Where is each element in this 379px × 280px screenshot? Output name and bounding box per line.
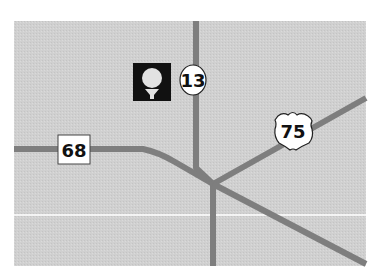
golf-marker[interactable] (133, 63, 171, 101)
route-68-label: 68 (61, 140, 86, 161)
route-75-label: 75 (280, 121, 305, 142)
route-68-marker[interactable]: 68 (58, 135, 90, 164)
route-75-marker[interactable]: 75 (275, 113, 313, 151)
route-13-marker[interactable]: 13 (180, 65, 206, 95)
route-13-label: 13 (180, 70, 205, 91)
map: 13 68 75 (0, 0, 379, 280)
